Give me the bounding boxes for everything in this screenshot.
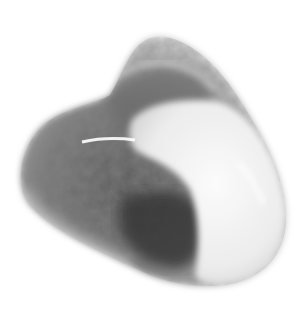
stone-illustration bbox=[0, 0, 307, 316]
stone-photo bbox=[0, 0, 307, 316]
